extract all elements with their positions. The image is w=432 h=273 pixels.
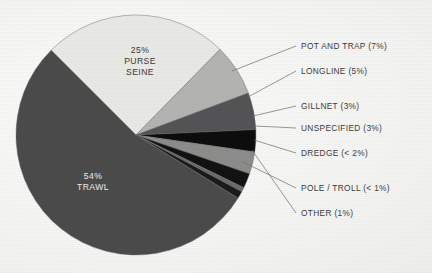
callout-label-longline: LONGLINE (5%) — [301, 66, 367, 76]
leader-line-gillnet — [253, 106, 296, 116]
callout-label-other: OTHER (1%) — [301, 208, 353, 218]
leader-line-pot-and-trap — [232, 46, 296, 71]
purse-seine-name-label-2: SEINE — [126, 67, 154, 77]
pie-chart-svg: POT AND TRAP (7%) LONGLINE (5%) GILLNET … — [0, 0, 432, 273]
pie-chart-figure: POT AND TRAP (7%) LONGLINE (5%) GILLNET … — [0, 0, 432, 273]
callout-labels-group: POT AND TRAP (7%) LONGLINE (5%) GILLNET … — [301, 41, 390, 218]
callout-label-pot-and-trap: POT AND TRAP (7%) — [301, 41, 387, 51]
leader-line-unspecified — [255, 126, 296, 128]
callout-label-dredge: DREDGE (< 2%) — [301, 148, 368, 158]
trawl-percent-label: 54% — [84, 171, 102, 181]
leader-line-longline — [248, 71, 296, 97]
purse-seine-percent-label: 25% — [131, 45, 149, 55]
callout-label-gillnet: GILLNET (3%) — [301, 101, 359, 111]
leader-line-dredge — [254, 140, 296, 153]
purse-seine-name-label-1: PURSE — [124, 56, 156, 66]
leader-line-other — [252, 150, 296, 213]
callout-label-unspecified: UNSPECIFIED (3%) — [301, 123, 382, 133]
callout-label-pole-troll: POLE / TROLL (< 1%) — [301, 183, 390, 193]
trawl-name-label: TRAWL — [77, 182, 109, 192]
